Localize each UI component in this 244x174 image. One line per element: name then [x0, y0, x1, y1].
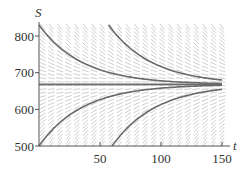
y-tick-label: 600: [15, 102, 35, 117]
y-tick-label: 500: [15, 139, 35, 154]
y-tick-label: 800: [15, 29, 35, 44]
direction-field-chart: 50060070080050100150St: [0, 0, 244, 174]
x-tick-label: 150: [212, 151, 232, 166]
x-tick-label: 100: [151, 151, 171, 166]
y-tick-label: 700: [15, 65, 35, 80]
y-axis-label: S: [35, 5, 42, 20]
x-tick-label: 50: [94, 151, 107, 166]
x-axis-label: t: [233, 138, 237, 153]
